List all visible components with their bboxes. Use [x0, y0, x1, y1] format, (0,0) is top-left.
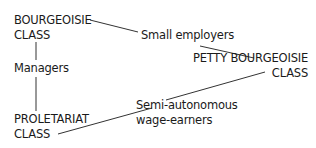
node-line: PROLETARIAT	[14, 112, 89, 127]
edge-bourgeoisie-small-employers	[90, 20, 138, 32]
node-semi-autonomous-wage-earners: Semi-autonomous wage-earners	[136, 98, 238, 128]
class-location-diagram: BOURGEOISIE CLASS Small employers Manage…	[0, 0, 316, 148]
node-line: Managers	[14, 61, 69, 76]
node-line: CLASS	[14, 28, 92, 43]
node-line: CLASS	[193, 66, 308, 81]
node-line: CLASS	[14, 127, 89, 142]
node-line: Semi-autonomous	[136, 98, 238, 113]
node-proletariat-class: PROLETARIAT CLASS	[14, 112, 89, 142]
node-line: BOURGEOISIE	[14, 13, 92, 28]
node-bourgeoisie-class: BOURGEOISIE CLASS	[14, 13, 92, 43]
node-managers: Managers	[14, 61, 69, 76]
node-small-employers: Small employers	[141, 28, 234, 43]
node-line: PETTY BOURGEOISIE	[193, 51, 308, 66]
node-petty-bourgeoisie-class: PETTY BOURGEOISIE CLASS	[193, 51, 308, 81]
node-line: wage-earners	[136, 113, 238, 128]
node-line: Small employers	[141, 28, 234, 43]
